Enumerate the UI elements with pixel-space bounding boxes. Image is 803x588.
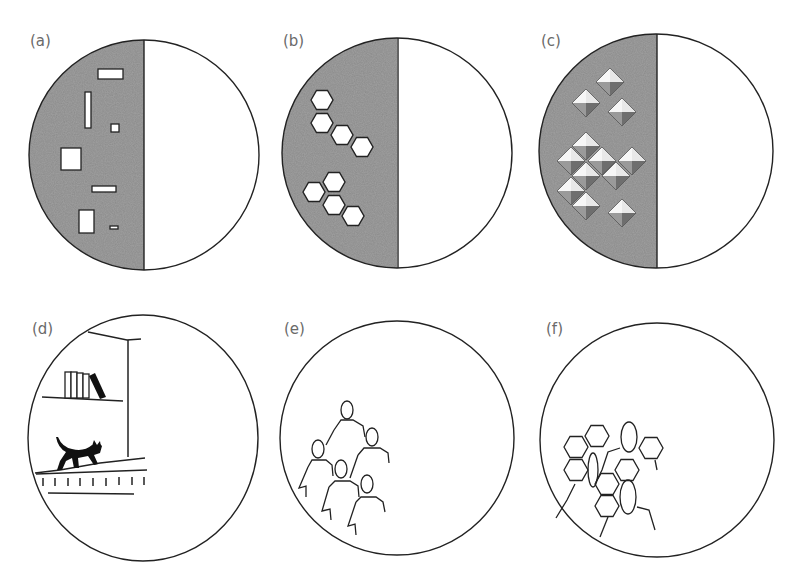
panel-label-f: (f) bbox=[546, 320, 563, 338]
ledge-ticks bbox=[43, 477, 144, 486]
panel-label-c: (c) bbox=[541, 32, 561, 50]
shaded-half bbox=[270, 30, 397, 290]
panel-d: (d) bbox=[28, 315, 258, 561]
panel-label-a: (a) bbox=[30, 32, 51, 50]
head-shape bbox=[621, 422, 637, 452]
cat-icon bbox=[56, 437, 102, 470]
panel-a: (a) bbox=[20, 30, 259, 290]
person-icon bbox=[326, 401, 365, 445]
circle-outline bbox=[28, 315, 258, 561]
panel-label-e: (e) bbox=[284, 320, 305, 338]
circle-outline bbox=[540, 323, 774, 557]
books-icon bbox=[65, 372, 106, 399]
person-icon bbox=[348, 475, 385, 535]
panel-b: (b) bbox=[270, 30, 512, 290]
panel-label-b: (b) bbox=[283, 32, 304, 50]
circle-outline bbox=[280, 321, 514, 555]
room-lines bbox=[35, 332, 147, 494]
head-shape bbox=[620, 480, 636, 514]
person-icon bbox=[350, 428, 389, 478]
panel-e: (e) bbox=[280, 320, 514, 555]
panel-f: (f) bbox=[540, 320, 774, 557]
shaded-half bbox=[20, 30, 144, 290]
people-group-icon bbox=[299, 401, 389, 535]
panel-c: (c) bbox=[530, 28, 773, 288]
panel-label-d: (d) bbox=[32, 320, 53, 338]
person-icon bbox=[299, 440, 333, 497]
figure-canvas: (a) (b) bbox=[0, 0, 803, 588]
